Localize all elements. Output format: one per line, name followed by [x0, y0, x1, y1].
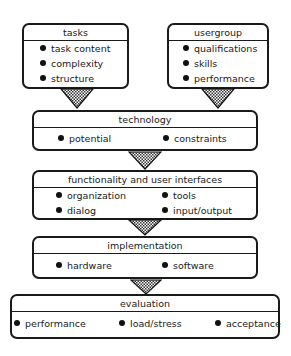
implementation-title: implementation	[34, 238, 256, 254]
technology-item: potential	[58, 133, 111, 145]
arrow-down-icon	[201, 88, 235, 110]
evaluation-box: evaluation performance load/stress accep…	[10, 294, 280, 339]
tasks-title: tasks	[24, 25, 127, 41]
evaluation-title: evaluation	[12, 296, 278, 312]
implementation-item: hardware	[56, 260, 112, 272]
tasks-item: complexity	[40, 58, 103, 70]
functionality-item: tools	[162, 190, 196, 202]
evaluation-item: performance	[14, 318, 86, 330]
technology-title: technology	[34, 112, 256, 128]
usergroup-item: performance	[183, 73, 255, 85]
usergroup-box: usergroup qualifications skills performa…	[167, 23, 269, 89]
functionality-box: functionality and user interfaces organi…	[32, 170, 258, 220]
technology-box: technology potential constraints	[32, 110, 258, 151]
evaluation-item: load/stress	[119, 318, 182, 330]
functionality-item: dialog	[56, 205, 96, 217]
functionality-title: functionality and user interfaces	[34, 172, 256, 188]
functionality-item: organization	[56, 190, 126, 202]
functionality-item: input/output	[162, 205, 232, 217]
tasks-box: tasks task content complexity structure	[22, 23, 129, 89]
technology-item: constraints	[163, 133, 227, 145]
usergroup-item: qualifications	[183, 43, 257, 55]
arrow-down-icon	[128, 219, 162, 237]
usergroup-item: skills	[183, 58, 217, 70]
implementation-box: implementation hardware software	[32, 236, 258, 279]
tasks-item: structure	[40, 73, 94, 85]
implementation-item: software	[162, 260, 214, 272]
usergroup-title: usergroup	[169, 25, 267, 41]
tasks-item: task content	[40, 43, 110, 55]
arrow-down-icon	[128, 151, 162, 171]
arrow-down-icon	[60, 88, 94, 110]
evaluation-item: acceptance	[215, 318, 281, 330]
